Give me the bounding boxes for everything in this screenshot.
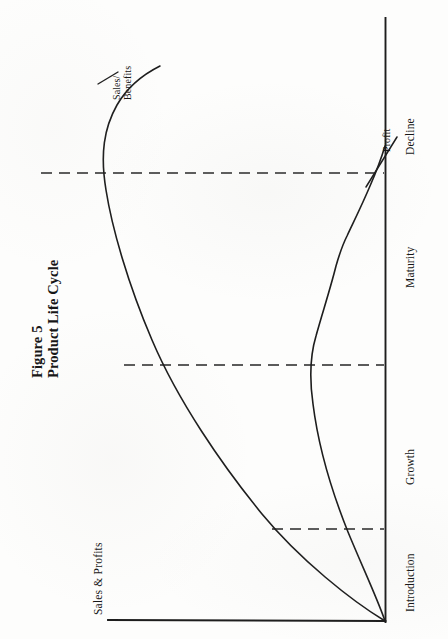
figure-title-line1: Figure 5 <box>30 260 46 378</box>
figure-title: Figure 5 Product Life Cycle <box>30 260 61 378</box>
y-axis-title: Sales & Profits <box>92 542 104 615</box>
sales-benefits-curve <box>103 66 385 621</box>
stage-label-maturity: Maturity <box>404 247 416 288</box>
sales-benefits-annotation: Sales/ Benefits <box>112 66 134 100</box>
profit-curve <box>311 146 385 621</box>
value-axis <box>108 620 386 621</box>
profit-annotation: Profit <box>382 129 393 152</box>
sales-benefits-annotation-line2: Benefits <box>123 66 134 100</box>
figure-page: Figure 5 Product Life Cycle Sales & Prof… <box>0 0 448 639</box>
stage-label-decline: Decline <box>404 118 416 155</box>
stage-label-growth: Growth <box>404 449 416 485</box>
figure-title-line2: Product Life Cycle <box>46 260 62 378</box>
product-life-cycle-chart <box>0 0 448 639</box>
stage-label-introduction: Introduction <box>404 553 416 612</box>
